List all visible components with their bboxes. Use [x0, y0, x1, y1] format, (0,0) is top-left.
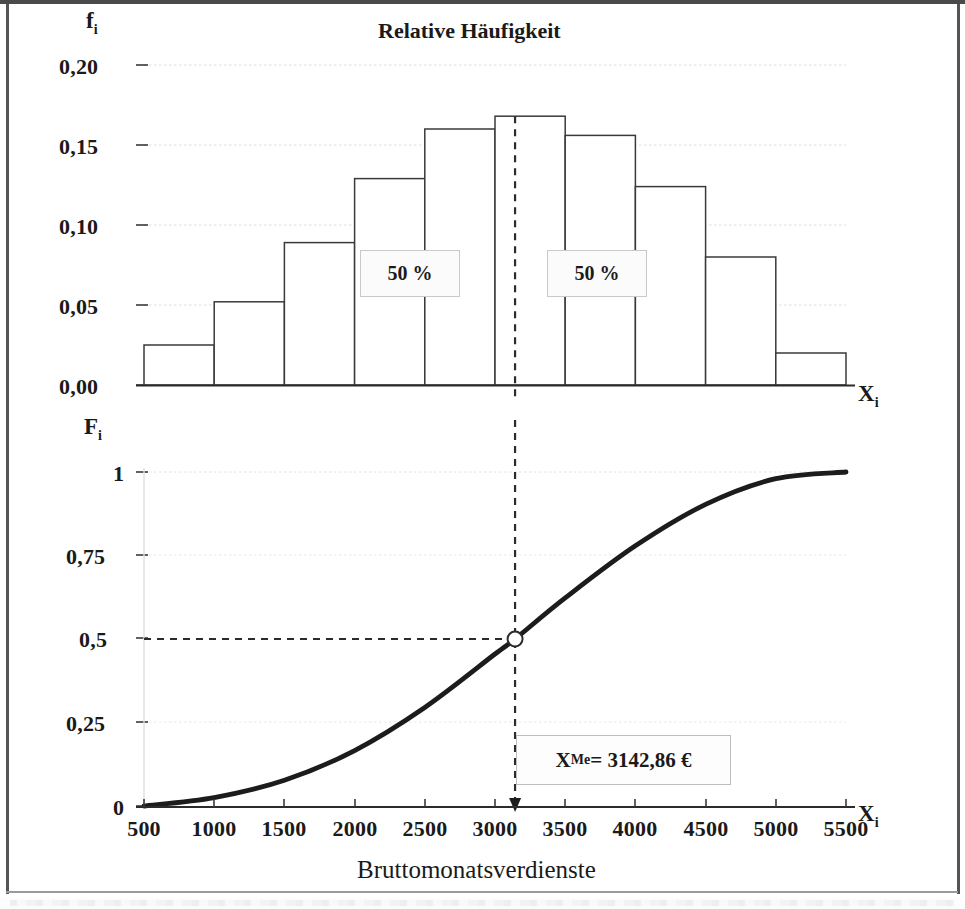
- ogive-x-tickmarks: [144, 799, 846, 807]
- annotation-right-half: 50 %: [547, 250, 647, 297]
- x-tick-500: 500: [118, 816, 170, 842]
- lower-y-tick-1: 1: [113, 461, 124, 487]
- median-annotation-box: XMe = 3142,86 €: [516, 735, 731, 785]
- x-tick-3000: 3000: [464, 816, 526, 842]
- lower-y-tick-05: 0,5: [79, 627, 107, 653]
- upper-y-tick-000: 0,00: [59, 374, 98, 400]
- upper-y-tick-010: 0,10: [59, 214, 98, 240]
- lower-x-axis-label: Xi: [858, 801, 879, 831]
- ogive-gridlines: [144, 472, 846, 722]
- lower-y-axis-label-subscript: i: [98, 428, 102, 443]
- x-tick-4500: 4500: [675, 816, 737, 842]
- histogram-bar: [776, 353, 846, 385]
- lower-y-tick-075: 0,75: [66, 544, 105, 570]
- lower-y-tick-025: 0,25: [66, 711, 105, 737]
- histogram-bar: [214, 302, 284, 385]
- median-annotation-value: = 3142,86 €: [590, 748, 691, 773]
- median-annotation-subscript: Me: [571, 752, 590, 768]
- lower-x-axis-label-text: X: [858, 801, 875, 826]
- upper-y-axis-label-text: f: [86, 8, 94, 33]
- annotation-left-half: 50 %: [360, 250, 460, 297]
- lower-x-axis-label-subscript: i: [875, 815, 879, 830]
- x-tick-5000: 5000: [745, 816, 807, 842]
- histogram-bar: [706, 257, 776, 385]
- median-arrowhead: [509, 798, 521, 812]
- x-tick-1000: 1000: [183, 816, 245, 842]
- histogram-bar: [144, 345, 214, 385]
- median-point-marker: [508, 632, 523, 647]
- histogram-y-tickmarks: [136, 65, 148, 385]
- upper-y-axis-label: fi: [86, 8, 98, 38]
- x-tick-1500: 1500: [253, 816, 315, 842]
- figure-canvas: Relative Häufigkeit fi 0,20 0,15 0,10 0,…: [0, 0, 965, 909]
- x-tick-3500: 3500: [534, 816, 596, 842]
- lower-y-axis-label-text: F: [84, 414, 98, 439]
- x-tick-2000: 2000: [324, 816, 386, 842]
- x-tick-4000: 4000: [604, 816, 666, 842]
- chart-title: Relative Häufigkeit: [378, 18, 561, 44]
- upper-y-tick-020: 0,20: [59, 54, 98, 80]
- figure-x-axis-caption: Bruttomonatsverdienste: [357, 856, 596, 884]
- upper-y-tick-005: 0,05: [59, 294, 98, 320]
- chart-graphics: [0, 0, 965, 909]
- upper-y-axis-label-subscript: i: [94, 22, 98, 37]
- median-annotation-symbol: X: [556, 748, 571, 773]
- lower-y-axis-label: Fi: [84, 414, 102, 444]
- upper-x-axis-label-subscript: i: [875, 395, 879, 410]
- histogram-bars: [144, 116, 846, 385]
- upper-x-axis-label-text: X: [858, 381, 875, 406]
- upper-y-tick-015: 0,15: [59, 134, 98, 160]
- histogram-bar: [284, 243, 354, 385]
- x-tick-2500: 2500: [394, 816, 456, 842]
- upper-x-axis-label: Xi: [858, 381, 879, 411]
